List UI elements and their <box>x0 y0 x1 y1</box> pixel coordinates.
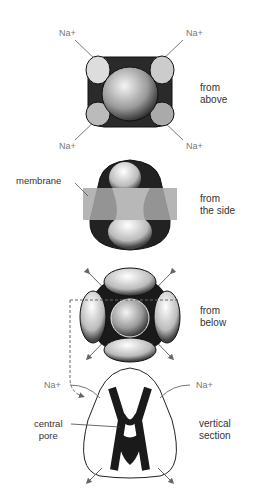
central-pore-label: central pore <box>34 418 63 442</box>
na-ion-label: Na+ <box>196 380 213 390</box>
caption-from-below: from below <box>200 305 226 329</box>
view-vertical-section <box>70 368 190 482</box>
na-ion-label: Na+ <box>186 28 203 38</box>
caption-vertical-section: vertical section <box>199 418 231 442</box>
na-ion-label: Na+ <box>186 141 203 151</box>
caption-from-above: from above <box>200 82 227 106</box>
membrane-label: membrane <box>16 175 61 187</box>
na-ion-label: Na+ <box>59 141 76 151</box>
na-ion-label: Na+ <box>44 380 61 390</box>
view-from-the-side <box>75 160 177 250</box>
view-from-above <box>75 40 183 140</box>
na-ion-label: Na+ <box>59 28 76 38</box>
caption-from-the-side: from the side <box>200 193 235 217</box>
